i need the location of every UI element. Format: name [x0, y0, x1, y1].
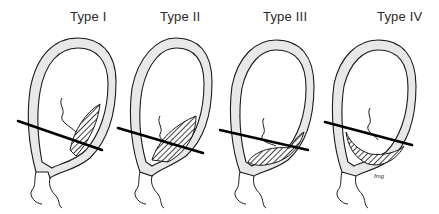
artist-signature: fmg [374, 173, 385, 179]
panel-type-2 [118, 38, 212, 208]
panel-type-1 [18, 38, 116, 208]
cervix [31, 172, 62, 208]
uterus-classification-diagram: fmg [0, 0, 439, 214]
cervix [135, 172, 164, 208]
cervix [337, 172, 368, 208]
panel-type-4: fmg [325, 40, 416, 208]
cervix [235, 172, 266, 208]
panel-type-3 [220, 40, 314, 208]
